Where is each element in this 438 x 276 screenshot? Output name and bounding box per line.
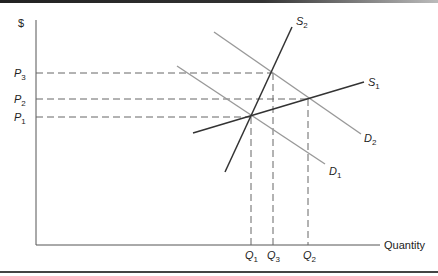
s2-label: S2 [296, 15, 308, 30]
y-axis-label: $ [18, 17, 24, 29]
d2-label: D2 [364, 132, 377, 147]
supply-demand-diagram: $ Quantity P3 P2 P1 Q1 Q3 Q2 S2 S1 D2 D1 [0, 0, 438, 276]
s1-label: S1 [368, 76, 380, 91]
demand-curve-d2 [214, 32, 361, 134]
q2-label: Q2 [303, 249, 317, 264]
supply-curve-s1 [193, 82, 364, 133]
p1-label: P1 [14, 111, 26, 126]
q1-label: Q1 [245, 249, 259, 264]
x-axis-label: Quantity [384, 239, 425, 251]
p2-label: P2 [14, 93, 26, 108]
q3-label: Q3 [267, 249, 281, 264]
d1-label: D1 [329, 165, 342, 180]
p3-label: P3 [14, 67, 26, 82]
